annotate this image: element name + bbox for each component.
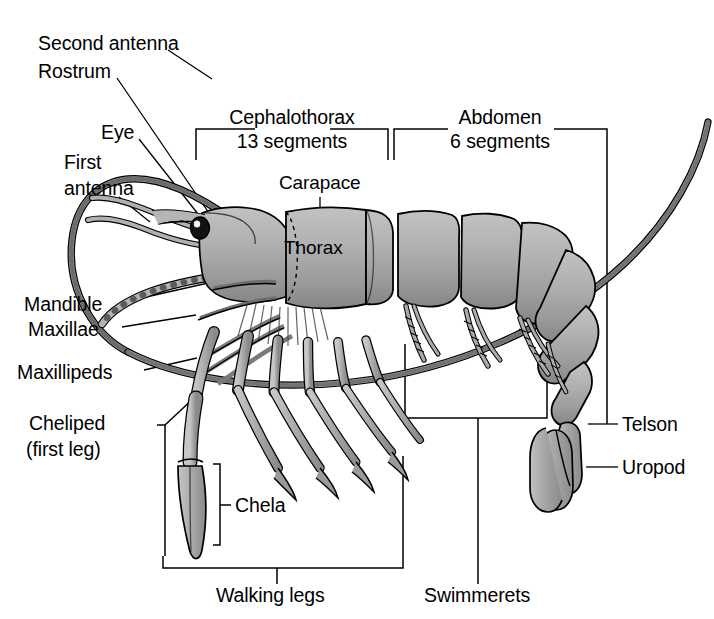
label-mandible: Mandible: [24, 292, 102, 316]
label-first-antenna-line1: First: [64, 150, 101, 174]
label-maxillipeds: Maxillipeds: [17, 360, 112, 384]
label-walking-legs: Walking legs: [216, 583, 325, 607]
label-swimmerets: Swimmerets: [424, 583, 530, 607]
label-cheliped-line1: Cheliped: [29, 411, 105, 435]
abdomen-segments: [398, 211, 599, 425]
label-cheliped-line2: (first leg): [26, 437, 101, 461]
anatomy-diagram: Second antenna Rostrum Eye First antenna…: [0, 0, 714, 619]
label-carapace: Carapace: [279, 171, 361, 195]
label-telson: Telson: [622, 412, 678, 436]
bracket-label-cephalothorax-line2: 13 segments: [212, 129, 372, 153]
bracket-label-abdomen-line1: Abdomen: [420, 105, 580, 129]
label-chela: Chela: [235, 493, 285, 517]
label-rostrum: Rostrum: [38, 59, 111, 83]
bracket-chela: [213, 464, 231, 545]
anatomy-illustration: [0, 0, 714, 619]
label-maxillae: Maxillae: [28, 317, 99, 341]
label-uropod: Uropod: [622, 455, 685, 479]
bracket-label-abdomen-line2: 6 segments: [420, 129, 580, 153]
cheliped-first-leg: [178, 332, 214, 559]
label-second-antenna: Second antenna: [38, 31, 179, 55]
bracket-swimmerets: [405, 342, 547, 584]
eye: [191, 217, 210, 239]
leader-maxillae: [122, 315, 196, 327]
bracket-label-cephalothorax-line1: Cephalothorax: [212, 105, 372, 129]
swimmeret-1: [405, 306, 438, 360]
label-eye: Eye: [101, 120, 134, 144]
label-first-antenna-line2: antenna: [64, 176, 134, 200]
telson-uropod-group: [530, 422, 582, 512]
label-thorax: Thorax: [284, 236, 343, 260]
